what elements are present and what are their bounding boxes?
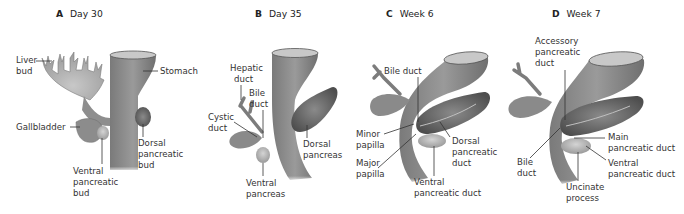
svg-text:Hepatic: Hepatic [230, 63, 263, 73]
svg-text:Bile: Bile [249, 88, 265, 98]
svg-text:duct: duct [249, 99, 269, 109]
svg-text:Ventral: Ventral [246, 178, 277, 188]
label-gallbladder: Gallbladder [16, 122, 66, 132]
panel-a-title: Day 30 [70, 8, 103, 19]
svg-text:Ventral: Ventral [73, 166, 104, 176]
panel-c-letter: C [386, 8, 393, 19]
svg-text:Cystic: Cystic [208, 112, 234, 122]
svg-text:duct: duct [517, 168, 537, 178]
svg-text:Accessory: Accessory [535, 36, 578, 46]
svg-text:pancreatic duct: pancreatic duct [608, 143, 676, 153]
svg-text:pancreas: pancreas [303, 150, 343, 160]
pancreas-development-diagram: A Day 30 Liver bud Stomach Gallbladder D… [0, 0, 684, 214]
svg-text:Major: Major [356, 158, 380, 168]
svg-text:Minor: Minor [356, 129, 381, 139]
panel-c: C Week 6 Bile duct Minor papilla Major p… [356, 8, 498, 198]
svg-text:Bile: Bile [517, 157, 533, 167]
panel-d-title: Week 7 [567, 8, 601, 19]
liver-bud-shape [42, 52, 104, 100]
svg-text:Liver: Liver [16, 55, 38, 65]
svg-text:B Day 35: B Day 35 [255, 8, 302, 19]
ventral-pancreas-shape [256, 147, 270, 163]
svg-text:Uncinate: Uncinate [566, 182, 604, 192]
svg-text:pancreas: pancreas [246, 189, 286, 199]
svg-text:bud: bud [16, 66, 32, 76]
label-bile-duct-c: Bile duct [384, 66, 422, 76]
svg-text:Dorsal: Dorsal [138, 138, 166, 148]
svg-text:D Week 7: D Week 7 [552, 8, 601, 19]
svg-text:papilla: papilla [356, 140, 385, 150]
panel-b: B Day 35 Hepatic duct Bile duct Cystic d… [208, 8, 343, 199]
svg-text:pancreatic: pancreatic [452, 147, 498, 157]
panel-d: D Week 7 Accessory pancreatic duct Main … [508, 8, 675, 203]
svg-text:pancreatic: pancreatic [535, 47, 581, 57]
svg-text:Dorsal: Dorsal [452, 136, 480, 146]
panel-d-letter: D [552, 8, 560, 19]
svg-text:bud: bud [73, 188, 89, 198]
svg-text:Dorsal: Dorsal [303, 139, 331, 149]
label-stomach: Stomach [160, 66, 198, 76]
svg-text:Ventral: Ventral [608, 158, 639, 168]
panel-b-letter: B [255, 8, 262, 19]
svg-text:C Week 6: C Week 6 [386, 8, 434, 19]
svg-text:process: process [566, 193, 600, 203]
svg-text:papilla: papilla [356, 169, 385, 179]
dorsal-pancreas-shape [291, 87, 337, 132]
svg-text:duct: duct [234, 74, 254, 84]
svg-text:Ventral: Ventral [414, 177, 445, 187]
panel-c-title: Week 6 [400, 8, 434, 19]
svg-text:duct: duct [452, 158, 472, 168]
panel-b-title: Day 35 [269, 8, 302, 19]
svg-text:pancreatic duct: pancreatic duct [608, 169, 676, 179]
svg-text:pancreatic duct: pancreatic duct [414, 188, 482, 198]
svg-text:duct: duct [535, 58, 555, 68]
ventral-bud-shape [97, 126, 109, 140]
ventral-pancreas-shape-c [418, 134, 446, 148]
panel-a-letter: A [56, 8, 64, 19]
svg-text:Main: Main [608, 132, 629, 142]
svg-text:duct: duct [208, 123, 228, 133]
svg-text:pancreatic: pancreatic [73, 177, 119, 187]
svg-text:A Day 30: A Day 30 [56, 8, 103, 19]
svg-text:bud: bud [138, 160, 154, 170]
panel-a: A Day 30 Liver bud Stomach Gallbladder D… [16, 8, 198, 198]
svg-text:pancreatic: pancreatic [138, 149, 184, 159]
